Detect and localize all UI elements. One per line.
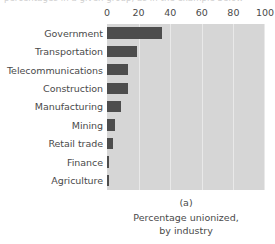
bar-row [107,153,265,171]
x-tick-label-80: 80 [227,7,239,18]
y-label-manufacturing: Manufacturing [35,101,103,112]
y-label-row: Telecommunications [0,61,103,79]
caption-panel-id: (a) [107,196,265,210]
y-label-government: Government [44,28,103,39]
clipped-text-line: percentages in a given group, as in the … [0,0,275,6]
y-label-telecommunications: Telecommunications [7,65,103,76]
y-label-row: Construction [0,79,103,97]
bar-row [107,116,265,134]
bar-row [107,24,265,42]
y-label-row: Manufacturing [0,98,103,116]
y-label-agriculture: Agriculture [51,175,103,186]
bar-row [107,135,265,153]
y-label-row: Finance [0,153,103,171]
caption-line-1: Percentage unionized, [107,211,265,225]
figure-caption: (a) Percentage unionized, by industry [107,196,265,238]
bar-manufacturing [107,101,121,112]
x-tick-label-40: 40 [164,7,176,18]
clipped-text: percentages in a given group, as in the … [4,0,243,3]
bar-row [107,98,265,116]
y-label-row: Mining [0,116,103,134]
y-label-row: Agriculture [0,172,103,190]
bar-row [107,172,265,190]
bar-mining [107,119,115,130]
bar-transportation [107,46,137,57]
bar-finance [107,156,109,167]
y-label-construction: Construction [43,83,103,94]
y-label-mining: Mining [72,120,103,131]
y-axis-category-labels: GovernmentTransportationTelecommunicatio… [0,24,103,190]
plot-area [107,24,265,190]
y-label-row: Transportation [0,42,103,60]
bar-construction [107,83,128,94]
y-label-transportation: Transportation [35,46,103,57]
y-label-row: Retail trade [0,135,103,153]
bar-telecommunications [107,64,128,75]
bar-agriculture [107,175,109,186]
bar-retail-trade [107,138,113,149]
x-tick-label-100: 100 [256,7,274,18]
y-label-row: Government [0,24,103,42]
x-tick-label-60: 60 [196,7,208,18]
bar-rows [107,24,265,190]
y-label-finance: Finance [67,157,103,168]
bar-row [107,79,265,97]
x-axis-tick-labels: 020406080100 [107,7,265,21]
y-label-retail-trade: Retail trade [48,138,103,149]
x-tick-label-20: 20 [133,7,145,18]
caption-line-2: by industry [107,224,265,238]
x-tick-label-0: 0 [104,7,110,18]
bar-government [107,27,162,38]
bar-row [107,61,265,79]
bar-row [107,42,265,60]
bar-chart-figure: percentages in a given group, as in the … [0,0,275,244]
